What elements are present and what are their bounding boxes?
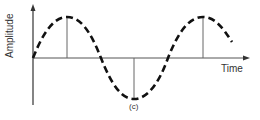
y-axis-label: Amplitude [4,14,15,58]
x-axis-label: Time [221,63,243,74]
y-axis-arrow-icon [31,4,36,11]
x-axis-arrow-icon [243,56,250,61]
figure-caption: (c) [129,102,138,111]
